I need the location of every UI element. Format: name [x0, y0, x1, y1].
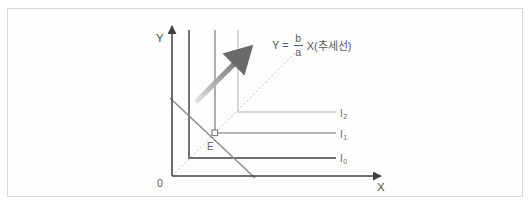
formula-fraction: b a: [294, 33, 303, 57]
diagram-canvas: [0, 0, 532, 206]
growth-direction-arrow: [196, 55, 243, 102]
curve-label-i2: I2: [340, 109, 347, 119]
formula-rhs: X(추세선): [307, 37, 352, 53]
formula-denominator: a: [295, 46, 301, 58]
curve-label-i2-subscript: 2: [343, 113, 347, 120]
equilibrium-point-label: E: [207, 142, 214, 152]
curve-label-i1: I1: [340, 130, 347, 140]
origin-label: 0: [157, 178, 163, 189]
formula-numerator: b: [295, 33, 301, 45]
curve-label-i0: I0: [340, 154, 347, 164]
equilibrium-point-marker: [212, 130, 218, 136]
formula-equals-sign: =: [282, 39, 288, 51]
y-axis-label: Y: [156, 33, 164, 45]
formula-lhs: Y: [272, 39, 279, 51]
figure-container: Y X 0 E I2 I1 I0 Y = b a X(추세선): [0, 0, 532, 206]
curve-label-i1-subscript: 1: [343, 134, 347, 141]
x-axis-label: X: [377, 182, 385, 194]
budget-line: [170, 98, 255, 178]
curve-label-i0-subscript: 0: [343, 158, 347, 165]
expansion-path-formula: Y = b a X(추세선): [272, 33, 351, 57]
